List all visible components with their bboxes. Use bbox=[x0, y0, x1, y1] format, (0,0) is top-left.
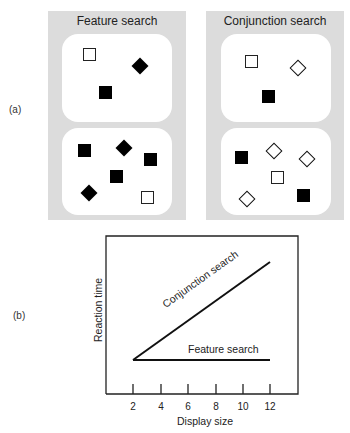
x-tick-label: 8 bbox=[213, 401, 219, 412]
reaction-time-chart bbox=[0, 0, 350, 433]
x-axis-title: Display size bbox=[177, 415, 233, 427]
chart-frame bbox=[106, 236, 298, 394]
x-tick-label: 12 bbox=[264, 401, 275, 412]
x-tick-label: 2 bbox=[130, 401, 136, 412]
feature-line-label: Feature search bbox=[188, 343, 259, 355]
y-axis-title: Reaction time bbox=[92, 278, 104, 342]
x-tick-label: 6 bbox=[185, 401, 191, 412]
x-tick-label: 4 bbox=[158, 401, 164, 412]
x-axis-ticks bbox=[133, 384, 270, 394]
x-tick-label: 10 bbox=[237, 401, 248, 412]
